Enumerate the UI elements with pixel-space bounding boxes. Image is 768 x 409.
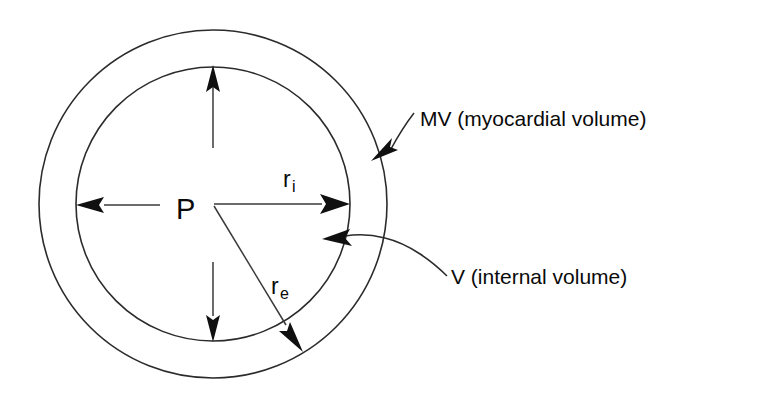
outer-radius-symbol: r: [271, 273, 279, 299]
radius-inner-arrow: [214, 194, 350, 214]
myocardial-volume-leader: [371, 113, 414, 161]
inner-radius-symbol: r: [283, 166, 291, 192]
inner-radius-subscript: i: [292, 178, 296, 195]
radius-outer-arrow: [214, 206, 303, 352]
pressure-label: P: [176, 193, 195, 225]
pressure-arrow-up: [206, 65, 220, 148]
inner-radius-label: r i: [283, 166, 296, 195]
myocardial-volume-label: MV (myocardial volume): [420, 107, 646, 130]
diagram-canvas: P r i r e MV (myocardial volume) V (inte…: [0, 0, 768, 409]
internal-volume-label: V (internal volume): [451, 265, 627, 288]
diagram-root: P r i r e MV (myocardial volume) V (inte…: [0, 0, 768, 409]
outer-radius-label: r e: [271, 273, 289, 302]
pressure-arrow-down: [206, 262, 220, 342]
outer-radius-subscript: e: [280, 285, 289, 302]
pressure-arrow-left: [76, 197, 160, 213]
